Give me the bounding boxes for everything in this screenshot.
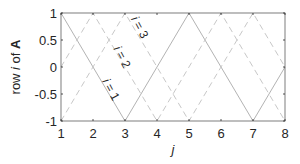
line-chart: 12345678 10.50-0.5-1 i = 1i = 2i = 3 j r… bbox=[0, 0, 300, 164]
x-axis-ticks: 12345678 bbox=[57, 13, 288, 141]
x-tick-label: 7 bbox=[249, 126, 256, 141]
x-tick-label: 3 bbox=[121, 126, 128, 141]
series-annotation-2: i = 2 bbox=[111, 44, 134, 71]
x-tick-label: 8 bbox=[281, 126, 288, 141]
plot-lines bbox=[61, 13, 285, 121]
series-line-1 bbox=[61, 13, 285, 121]
series-annotation-3: i = 3 bbox=[128, 14, 151, 41]
y-tick-label: -1 bbox=[45, 114, 57, 129]
x-tick-label: 1 bbox=[57, 126, 64, 141]
x-axis-label: j bbox=[170, 142, 176, 157]
x-tick-label: 5 bbox=[185, 126, 192, 141]
x-tick-label: 2 bbox=[89, 126, 96, 141]
y-axis-ticks: 10.50-0.5-1 bbox=[35, 6, 285, 129]
series-line-2 bbox=[61, 13, 285, 121]
series-line-3 bbox=[61, 13, 285, 121]
x-tick-label: 6 bbox=[217, 126, 224, 141]
x-tick-label: 4 bbox=[153, 126, 160, 141]
series-annotation-1: i = 1 bbox=[99, 76, 122, 103]
y-tick-label: -0.5 bbox=[35, 87, 57, 102]
y-tick-label: 0.5 bbox=[39, 33, 57, 48]
y-tick-label: 1 bbox=[50, 6, 57, 21]
y-tick-label: 0 bbox=[50, 60, 57, 75]
y-axis-label: row i of A bbox=[8, 39, 23, 95]
plot-area-frame bbox=[61, 13, 285, 121]
